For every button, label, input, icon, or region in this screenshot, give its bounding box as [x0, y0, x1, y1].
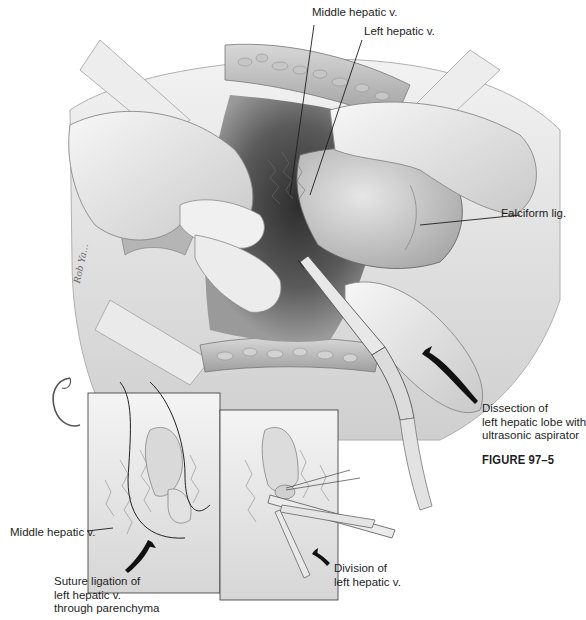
label-middle-hepatic-v: Middle hepatic v.	[312, 6, 397, 20]
label-left-hepatic-v: Left hepatic v.	[364, 25, 435, 39]
label-suture-ligation: Suture ligation of left hepatic v. throu…	[54, 575, 159, 616]
label-dissection-left-hepatic-lobe: Dissection of left hepatic lobe with ult…	[482, 402, 586, 443]
label-middle-hepatic-v-inset: Middle hepatic v.	[10, 526, 95, 540]
figure-title: FIGURE 97–5	[482, 452, 554, 467]
label-division-left-hepatic-v: Division of left hepatic v.	[334, 562, 401, 589]
label-falciform-lig: Falciform lig.	[501, 207, 566, 221]
